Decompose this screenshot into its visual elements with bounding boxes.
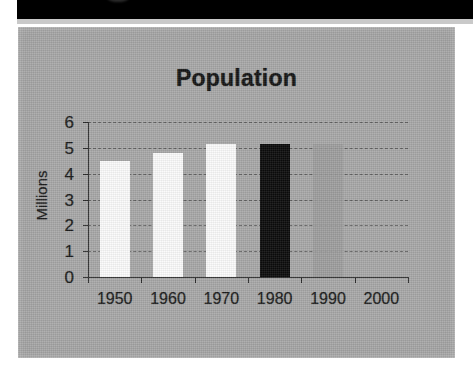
- gridline: [88, 200, 408, 201]
- y-axis-tick: 3: [83, 200, 89, 201]
- masthead-band: [17, 0, 473, 19]
- x-axis-tick: [301, 277, 302, 283]
- bar-1970: [206, 144, 236, 277]
- bar-1950: [100, 161, 130, 277]
- y-axis-tick-label: 2: [52, 216, 74, 236]
- plot-area: 0123456 195019601970198019902000: [88, 122, 408, 277]
- x-axis-tick: [195, 277, 196, 283]
- x-axis-tick-label: 1980: [248, 290, 302, 308]
- gridline: [88, 225, 408, 226]
- bar-1980: [260, 144, 290, 277]
- x-axis-tick: [355, 277, 356, 283]
- bar-1990: [313, 144, 343, 277]
- x-axis-tick-label: 1990: [301, 290, 355, 308]
- y-axis-tick: 1: [83, 251, 89, 252]
- y-axis-tick-label: 0: [52, 268, 74, 288]
- gridline: [88, 148, 408, 149]
- gridline: [88, 174, 408, 175]
- y-axis-tick: 5: [83, 148, 89, 149]
- x-axis-tick: [141, 277, 142, 283]
- gridline: [88, 251, 408, 252]
- x-axis-tick-label: 1970: [194, 290, 248, 308]
- x-axis-tick-label: 1950: [88, 290, 142, 308]
- page-gutter: [17, 19, 473, 24]
- x-axis-tick-label: 2000: [354, 290, 408, 308]
- cropped-text-glyph: [107, 0, 129, 2]
- x-axis-tick: [248, 277, 249, 283]
- y-axis-tick-label: 1: [52, 242, 74, 262]
- y-axis-tick-label: 3: [52, 191, 74, 211]
- y-axis-tick-label: 5: [52, 139, 74, 159]
- y-axis-tick-label: 6: [52, 113, 74, 133]
- x-axis-tick: [88, 277, 89, 283]
- x-axis-tick-label: 1960: [141, 290, 195, 308]
- bar-1960: [153, 153, 183, 277]
- y-axis-title: Millions: [33, 151, 50, 241]
- y-axis-tick-label: 4: [52, 165, 74, 185]
- gridline: [88, 122, 408, 123]
- x-axis-tick: [408, 277, 409, 283]
- screenshot-page: Population Millions 0123456 195019601970…: [0, 0, 473, 370]
- chart-title: Population: [18, 65, 455, 92]
- y-axis-tick: 4: [83, 174, 89, 175]
- y-axis-tick: 2: [83, 225, 89, 226]
- y-axis-tick: 6: [83, 122, 89, 123]
- figure-panel: Population Millions 0123456 195019601970…: [18, 27, 455, 358]
